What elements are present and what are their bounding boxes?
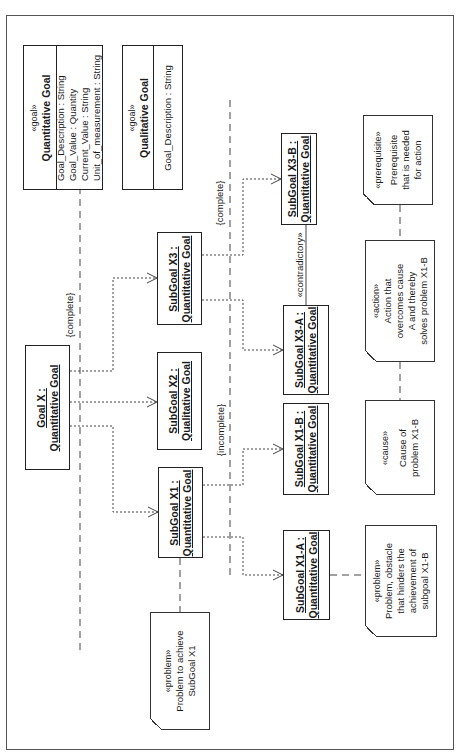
dependency-goalx-x3 [70,278,157,371]
object-name: SubGoal X3-A : [293,307,306,394]
class-header: «goal» Qualitative Goal [123,46,154,189]
note-text: achievement of [407,543,419,619]
class-quantitative-goal: «goal» Quantitative Goal Goal_Descriptio… [23,45,103,190]
note-text: that hinders the [395,543,407,619]
attribute: Goal_Description : String [55,54,67,180]
note-text: Cause of [397,418,409,476]
note-stereotype: «cause» [379,418,391,476]
note-text: that is needed [400,130,412,190]
object-subgoal-x3: SubGoal X3 :Quantitative Goal [157,232,202,325]
object-subgoal-x2: SubGoal X2 :Qualitative Goal [157,352,202,450]
object-type: Qualitative Goal [180,361,193,441]
constraint-incomplete-x1: {incomplete} [213,390,227,470]
note-problem-x1: «problem» Problem to achieve SubGoal X1 [150,612,210,730]
note-stereotype: «action» [370,257,382,345]
note-text: solves problem X1-B [418,257,430,345]
object-name: SubGoal X3 : [167,235,180,322]
object-subgoal-x3a: SubGoal X3-A :Quantitative Goal [283,305,329,395]
class-name: Quantitative Goal [40,74,52,161]
note-text: A and thereby [406,257,418,345]
note-text: for action [412,130,424,190]
object-name: SubGoal X2 : [167,361,180,441]
object-goal-x: Goal X :Quantitative Goal [25,345,70,470]
object-name: SubGoal X1 : [168,469,181,556]
dependency-x3-x3a [202,300,283,350]
class-attributes: Goal_Description : String Goal_Value : Q… [56,46,102,189]
constraint-complete-goalx: {complete} [62,280,76,350]
note-text: overcomes cause [394,257,406,345]
dependency-x1-x1a [203,537,283,575]
object-name: Goal X : [35,364,48,451]
constraint-complete-x3: {complete} [212,168,226,238]
note-problem-x1b: «problem» Problem, obstacle that hinders… [365,525,437,637]
note-stereotype: «problem» [162,630,174,711]
object-type: Quantitative Goal [181,469,194,556]
note-stereotype: «problem» [371,543,383,619]
attribute: Unit_of_measurement : String [91,54,103,180]
object-type: Quantitative Goal [48,364,61,451]
note-text: problem X1-B [409,418,421,476]
attribute: Current_Value : String [79,54,91,180]
class-qualitative-goal: «goal» Qualitative Goal Goal_Description… [122,45,183,190]
class-attributes: Goal_Description : String [153,46,182,189]
object-subgoal-x1b: SubGoal X1-B :Quantitative Goal [283,403,329,495]
object-type: Quantitative Goal [306,406,319,493]
note-action: «action» Action that overcomes cause A a… [365,240,435,362]
object-subgoal-x1a: SubGoal X1-A :Quantitative Goal [283,530,330,620]
object-type: Quantitative Goal [307,532,320,619]
note-prerequisite: «prerequisite» Prerequisite that is need… [363,115,433,205]
attribute: Goal_Description : String [162,65,174,171]
object-subgoal-x3b: SubGoal X3-B :Quantitative Goal [281,133,317,225]
object-name: SubGoal X1-B : [293,406,306,493]
note-stereotype: «prerequisite» [372,130,384,190]
constraint-contradictory: «contradictory» [292,225,306,305]
note-cause: «cause» Cause of problem X1-B [365,400,435,495]
class-header: «goal» Quantitative Goal [24,46,57,189]
attribute: Goal_Value : Quantity [67,54,79,180]
note-text: SubGoal X1 [186,630,198,711]
object-subgoal-x1: SubGoal X1 :Quantitative Goal [158,467,203,558]
note-text: Action that [382,257,394,345]
object-name: SubGoal X3-B : [286,136,299,223]
object-type: Quantitative Goal [306,307,319,394]
class-stereotype: «goal» [126,78,138,158]
object-name: SubGoal X1-A : [294,532,307,619]
object-type: Quantitative Goal [299,136,312,223]
class-name: Qualitative Goal [138,78,150,158]
note-text: Problem to achieve [174,630,186,711]
class-stereotype: «goal» [28,74,40,161]
note-text: Prerequisite [388,130,400,190]
note-text: Problem, obstacle [383,543,395,619]
dependency-goalx-x1 [70,426,158,512]
note-text: subgoal X1-B [419,543,431,619]
object-type: Quantitative Goal [180,235,193,322]
